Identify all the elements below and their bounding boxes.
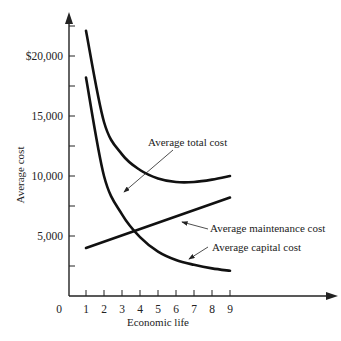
series-lines: [86, 31, 230, 271]
annotation-total-cost: Average total cost: [124, 136, 227, 192]
x-tick-label: 3: [119, 303, 125, 315]
x-tick-label: 8: [209, 303, 215, 315]
x-tick-label: 9: [227, 303, 233, 315]
y-tick-label: $20,000: [26, 50, 64, 63]
x-tick-label: 4: [137, 303, 143, 315]
y-tick-label: 10,000: [31, 170, 63, 183]
origin-label: 0: [56, 303, 62, 315]
y-axis-arrow-icon: [65, 12, 73, 24]
y-axis-label: Average cost: [14, 147, 26, 204]
y-axis: [65, 12, 73, 296]
series-line-average-total-cost: [86, 31, 230, 183]
x-axis: [69, 292, 338, 300]
svg-text:Average maintenance cost: Average maintenance cost: [210, 222, 325, 234]
x-tick-label: 1: [83, 303, 89, 315]
y-ticks: 5,00010,00015,000$20,000: [26, 26, 75, 266]
x-tick-label: 2: [101, 303, 107, 315]
svg-text:Average capital cost: Average capital cost: [212, 241, 301, 253]
x-tick-label: 7: [191, 303, 197, 315]
y-tick-label: 5,000: [37, 230, 63, 243]
annotation-maintenance-cost: Average maintenance cost: [182, 222, 325, 234]
x-axis-arrow-icon: [326, 292, 338, 300]
series-line-average-maintenance-cost: [86, 198, 230, 248]
x-tick-label: 6: [173, 303, 179, 315]
x-ticks: 123456789: [83, 290, 233, 315]
series-line-average-capital-cost: [86, 78, 230, 271]
x-tick-label: 5: [155, 303, 161, 315]
y-tick-label: 15,000: [31, 110, 63, 123]
x-axis-label: Economic life: [127, 316, 189, 328]
chart-canvas: 5,00010,00015,000$20,000 123456789 Avera…: [0, 0, 341, 341]
annotation-capital-cost: Average capital cost: [189, 241, 301, 259]
svg-text:Average total cost: Average total cost: [148, 136, 227, 148]
